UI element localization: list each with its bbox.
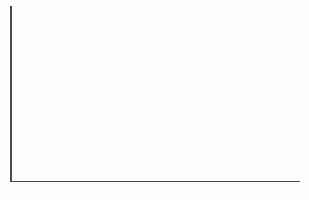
line-chart-svg xyxy=(0,0,309,200)
chart-figure xyxy=(0,0,309,200)
chart-background xyxy=(0,0,309,200)
